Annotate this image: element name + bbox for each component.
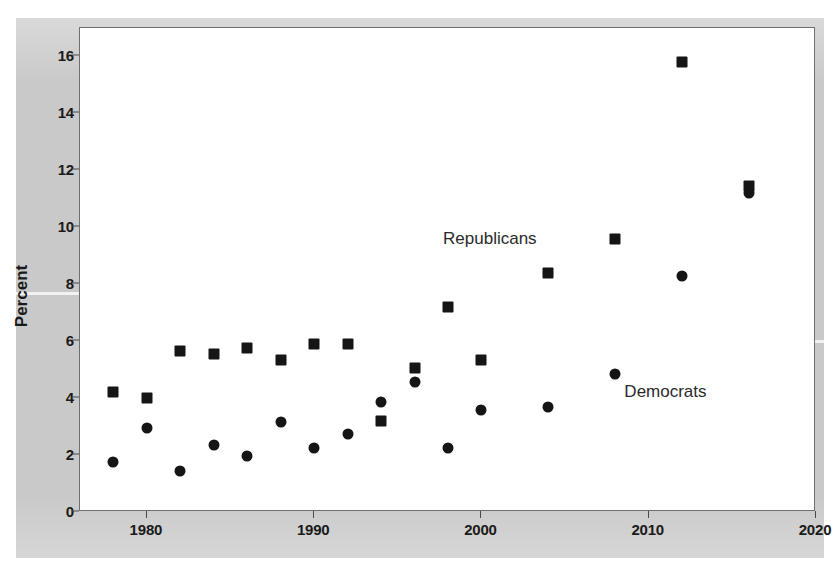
series-annotation-democrats: Democrats [624,382,706,402]
data-point-republicans-2004 [543,267,554,278]
plot-frame: RepublicansDemocrats [79,27,815,511]
data-point-republicans-1978 [108,387,119,398]
series-annotation-republicans: Republicans [443,229,537,249]
y-axis-tick-mark [72,169,79,170]
y-axis-tick-mark [72,226,79,227]
data-point-democrats-1990 [309,442,320,453]
chart-page: Percent 0246810121416 RepublicansDemocra… [0,0,840,572]
data-point-democrats-1998 [443,442,454,453]
x-axis-tick-label: 1990 [297,521,330,538]
data-point-democrats-1992 [342,428,353,439]
plot-area: RepublicansDemocrats [80,28,814,510]
data-point-republicans-2008 [610,233,621,244]
data-point-democrats-1986 [242,450,253,461]
data-point-democrats-2008 [610,368,621,379]
data-point-republicans-2000 [476,354,487,365]
x-axis-tick-label: 2010 [631,521,664,538]
data-point-republicans-1998 [443,302,454,313]
data-point-democrats-1996 [409,377,420,388]
data-point-republicans-1984 [208,348,219,359]
y-axis-ticks: 0246810121416 [0,0,74,572]
data-point-republicans-2012 [677,57,688,68]
x-axis-tick-label: 1980 [130,521,163,538]
y-axis-tick-mark [72,112,79,113]
data-point-republicans-1982 [175,346,186,357]
y-axis-tick-mark [72,397,79,398]
data-point-republicans-1996 [409,363,420,374]
data-point-democrats-1980 [141,423,152,434]
data-point-democrats-2000 [476,404,487,415]
y-axis-tick-mark [72,55,79,56]
data-point-republicans-1994 [376,415,387,426]
data-point-democrats-1984 [208,440,219,451]
data-point-democrats-2012 [677,270,688,281]
data-point-democrats-2004 [543,401,554,412]
x-axis-ticks: 19801990200020102020 [0,511,840,551]
y-axis-tick-mark [72,283,79,284]
x-axis-tick-label: 2000 [464,521,497,538]
data-point-republicans-1986 [242,343,253,354]
data-point-republicans-1988 [275,354,286,365]
data-point-republicans-1992 [342,339,353,350]
y-axis-tick-mark [72,340,79,341]
y-axis-tick-mark [72,454,79,455]
data-point-democrats-1978 [108,457,119,468]
data-point-democrats-2016 [744,188,755,199]
data-point-democrats-1994 [376,397,387,408]
data-point-democrats-1988 [275,417,286,428]
data-point-republicans-1990 [309,339,320,350]
data-point-democrats-1982 [175,465,186,476]
x-axis-tick-label: 2020 [799,521,832,538]
data-point-republicans-1980 [141,393,152,404]
